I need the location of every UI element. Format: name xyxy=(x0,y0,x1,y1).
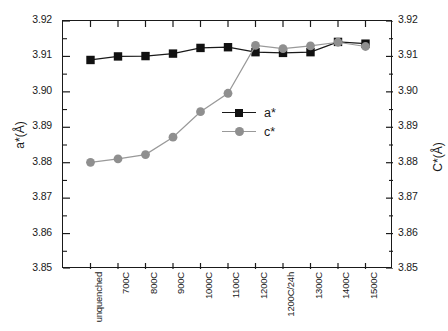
legend-line-a xyxy=(222,112,256,113)
y-axis-left-tick-label: 3.89 xyxy=(32,120,52,130)
data-point xyxy=(224,89,233,98)
data-point xyxy=(196,44,204,52)
y-axis-left-title: a*(Å) xyxy=(13,95,27,175)
legend: a* c* xyxy=(222,103,276,141)
chart-figure: a*(Å) C*(Å) a* c* 3.853.853.863.863.873.… xyxy=(0,0,448,331)
data-point xyxy=(361,42,370,51)
y-axis-left-tick-label: 3.88 xyxy=(32,156,52,166)
y-axis-left-tick-label: 3.85 xyxy=(32,262,52,272)
y-axis-left-tick-label: 3.90 xyxy=(32,85,52,95)
data-point xyxy=(141,52,149,60)
data-point xyxy=(169,133,178,142)
data-point xyxy=(141,150,150,159)
data-point xyxy=(279,44,288,53)
data-point xyxy=(86,158,95,167)
x-axis-tick-label: 1100C xyxy=(231,272,240,298)
data-point xyxy=(169,49,177,57)
x-axis-tick-label: 1500C xyxy=(369,272,378,299)
y-axis-right-tick-label: 3.87 xyxy=(398,191,418,201)
data-point xyxy=(196,107,205,116)
data-point xyxy=(114,52,122,60)
y-axis-right-tick-label: 3.91 xyxy=(398,49,418,59)
legend-label-c: c* xyxy=(264,125,275,139)
y-axis-right-tick-label: 3.85 xyxy=(398,262,418,272)
x-axis-tick-label: 1200C xyxy=(259,272,268,299)
data-point xyxy=(86,56,94,64)
legend-marker-circle-icon xyxy=(235,127,244,136)
y-axis-left-tick-label: 3.91 xyxy=(32,49,52,59)
y-axis-right-tick-label: 3.88 xyxy=(398,156,418,166)
x-axis-tick-label: 900C xyxy=(176,272,185,294)
data-point xyxy=(306,41,315,50)
x-axis-tick-label: 1000C xyxy=(204,272,213,299)
y-axis-left-tick-label: 3.86 xyxy=(32,227,52,237)
data-point xyxy=(224,43,232,51)
x-axis-tick-label: 1200C/24h xyxy=(286,272,295,317)
y-axis-right-tick-label: 3.92 xyxy=(398,14,418,24)
series-canvas xyxy=(63,21,393,269)
data-point xyxy=(251,41,260,50)
x-axis-tick-label: 800C xyxy=(149,272,158,294)
y-axis-left-tick-label: 3.92 xyxy=(32,14,52,24)
y-axis-left-tick-label: 3.87 xyxy=(32,191,52,201)
y-axis-right-title: C*(Å) xyxy=(431,117,445,197)
x-axis-tick-label: 1300C xyxy=(314,272,323,299)
y-axis-right-tick-label: 3.86 xyxy=(398,227,418,237)
x-axis-tick-label: unquenched xyxy=(94,272,103,322)
legend-marker-square-icon xyxy=(235,109,243,117)
plot-area xyxy=(62,20,392,268)
data-point xyxy=(114,154,123,163)
legend-line-c xyxy=(222,131,256,132)
data-point xyxy=(334,38,343,47)
legend-item-c: c* xyxy=(222,122,276,141)
y-axis-right-tick-label: 3.90 xyxy=(398,85,418,95)
y-axis-right-tick-label: 3.89 xyxy=(398,120,418,130)
x-axis-tick-label: 1400C xyxy=(341,272,350,299)
legend-item-a: a* xyxy=(222,103,276,122)
legend-label-a: a* xyxy=(264,106,276,120)
x-axis-tick-label: 700C xyxy=(121,272,130,294)
